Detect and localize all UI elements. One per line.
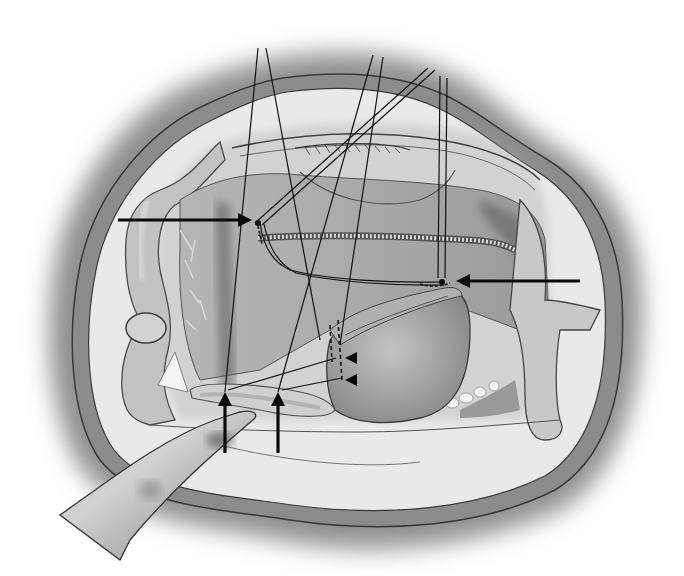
- left-nodule: [126, 313, 166, 343]
- illustration-canvas: [0, 0, 684, 576]
- surgical-illustration: [0, 0, 684, 576]
